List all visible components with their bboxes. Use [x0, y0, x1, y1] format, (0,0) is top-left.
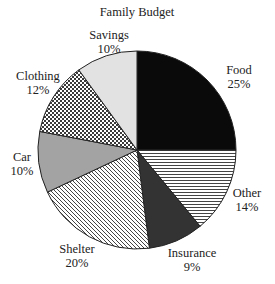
slice-value-shelter: 20%	[66, 256, 89, 270]
slice-value-clothing: 12%	[27, 83, 50, 97]
slice-label-food: Food	[226, 63, 252, 77]
pie-chart: Family Budget Food25%Other14%Insurance9%…	[0, 0, 275, 284]
slice-label-other: Other	[233, 186, 262, 200]
slice-value-food: 25%	[228, 77, 251, 91]
slice-value-other: 14%	[236, 200, 259, 214]
pie-slices	[38, 51, 236, 249]
chart-title: Family Budget	[100, 5, 175, 19]
slice-value-insurance: 9%	[184, 260, 201, 274]
slice-label-shelter: Shelter	[59, 242, 95, 256]
slice-label-savings: Savings	[89, 28, 129, 42]
slice-label-car: Car	[13, 150, 32, 164]
slice-label-insurance: Insurance	[168, 246, 217, 260]
slice-value-car: 10%	[11, 164, 34, 178]
pie-slice-food	[137, 51, 236, 150]
slice-label-clothing: Clothing	[16, 69, 61, 83]
slice-value-savings: 10%	[98, 42, 121, 56]
